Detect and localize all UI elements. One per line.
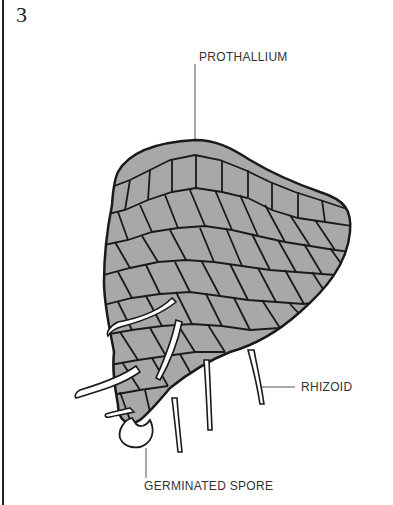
rhizoid-7 bbox=[248, 350, 264, 404]
germinated-spore-label: GERMINATED SPORE bbox=[144, 479, 273, 493]
prothallium-illustration bbox=[0, 0, 393, 505]
prothallium-label: PROTHALLIUM bbox=[199, 50, 288, 64]
rhizoid-5 bbox=[172, 398, 182, 452]
rhizoid-label: RHIZOID bbox=[301, 380, 352, 394]
rhizoid-6 bbox=[204, 360, 212, 430]
